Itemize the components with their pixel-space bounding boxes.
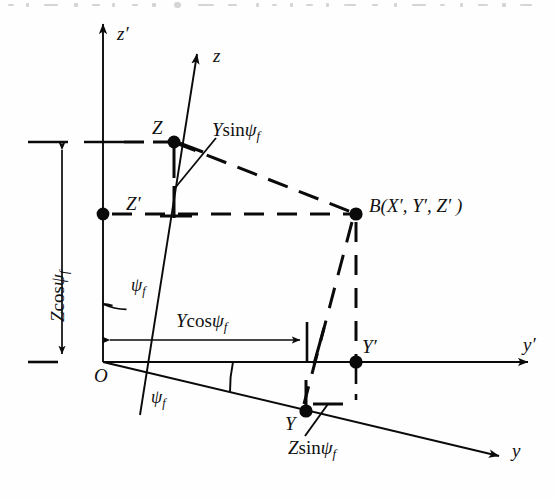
axis-label-y-prime: y′ xyxy=(523,335,536,354)
point-label-origin: O xyxy=(94,366,108,385)
dimension-label-z-sin: Zsinψf xyxy=(288,438,336,461)
angle-label-lower-psi: ψf xyxy=(151,388,166,409)
point-dot-Y-prime xyxy=(349,355,362,368)
dimension-label-z-cos: Zcosψf xyxy=(48,271,71,322)
angle-arc-upper xyxy=(103,304,127,309)
angle-arc-lower xyxy=(230,362,233,392)
point-dot-Z-prime xyxy=(97,208,110,221)
point-dot-Y xyxy=(299,404,312,417)
dashed-segment-b-to-y xyxy=(304,222,352,404)
point-label-B: B(X′, Y′, Z′ ) xyxy=(369,196,462,215)
point-dot-Z xyxy=(168,136,181,149)
figure-canvas: z′ z y′ y O Z Z′ Y Y′ B(X′, Y′, Z′ ) ψf … xyxy=(0,0,556,498)
point-label-Y: Y xyxy=(285,414,296,433)
axis-label-y: y xyxy=(512,441,520,460)
dimension-label-y-sin: Ysinψf xyxy=(212,120,260,143)
dimension-label-y-cos: Ycosψf xyxy=(176,311,227,334)
point-label-Z: Z xyxy=(152,118,163,137)
angle-label-upper-psi: ψf xyxy=(131,276,146,297)
axis-z xyxy=(140,54,197,415)
dash-slant-near-ycos xyxy=(314,328,324,364)
point-label-Y-prime: Y′ xyxy=(362,337,377,356)
axis-label-z-prime: z′ xyxy=(117,24,129,43)
diagram-vector-layer xyxy=(0,0,556,498)
point-label-Z-prime: Z′ xyxy=(126,194,141,213)
point-dot-B xyxy=(349,207,362,220)
axis-label-z: z xyxy=(213,46,220,65)
